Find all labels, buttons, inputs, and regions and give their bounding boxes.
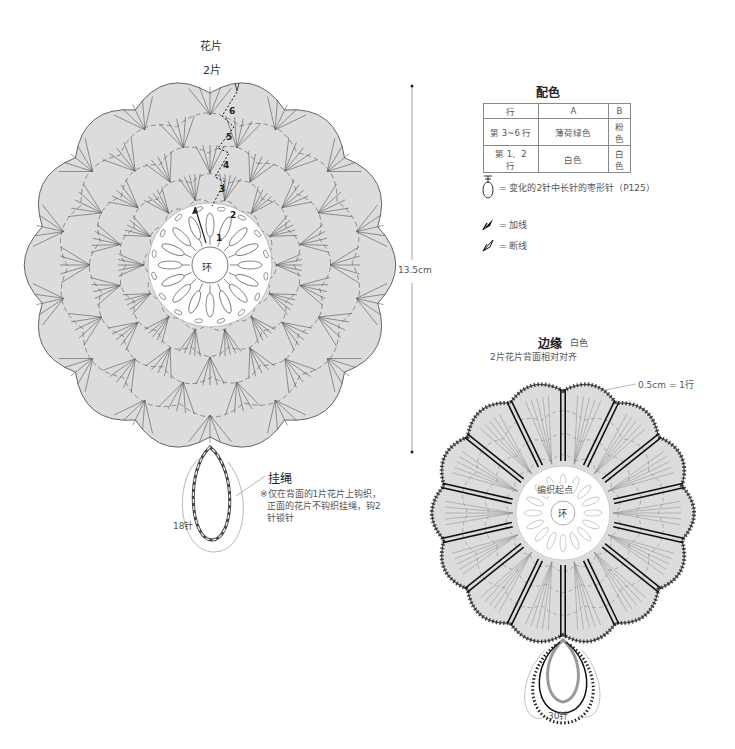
row-number-1: 1 (216, 233, 222, 243)
row-number-5: 5 (226, 132, 232, 142)
oval-stitch-icon (481, 174, 495, 200)
color-table-cell: 第 3~6 行 (484, 119, 539, 146)
join-yarn-icon (481, 217, 495, 231)
legend-item-join-yarn: = 加线 (481, 217, 527, 231)
color-table-header-row-label: 行 (484, 104, 539, 119)
color-table-header-b: B (609, 104, 631, 119)
border-loop-stitch-count: 30针 (548, 709, 568, 722)
row-number-4: 4 (223, 160, 229, 170)
color-table-row: 第 1、2 行 白色 白色 (484, 146, 631, 173)
hanging-loop-note-3: 针锁针 (267, 511, 294, 524)
border-start-label: 编织起点 (537, 483, 573, 496)
color-table-header-row: 行 A B (484, 104, 631, 119)
border-title: 边缘 (538, 334, 562, 351)
flower-count: 2片 (203, 61, 221, 77)
hanging-loop-stitch-count: 18针 (173, 519, 193, 532)
color-table-cell: 白色 (538, 146, 608, 173)
legend-label: = 加线 (499, 218, 527, 231)
flower-center-ring-label: 环 (202, 259, 212, 274)
border-color-label: 白色 (570, 336, 588, 349)
color-table-cell: 白色 (609, 146, 631, 173)
legend-item-oval-stitch: = 变化的2针中长针的枣形针（P125） (481, 174, 655, 200)
hanging-loop-title: 挂绳 (268, 469, 292, 486)
legend-label: = 变化的2针中长针的枣形针（P125） (499, 181, 655, 194)
cut-yarn-icon (481, 238, 495, 252)
row-number-2: 2 (230, 210, 236, 220)
color-table: 行 A B 第 3~6 行 薄荷绿色 粉色 第 1、2 行 白色 白色 (483, 103, 631, 173)
color-table-cell: 粉色 (609, 119, 631, 146)
color-table-row: 第 3~6 行 薄荷绿色 粉色 (484, 119, 631, 146)
legend-item-cut-yarn: = 断线 (481, 238, 527, 252)
border-row-note: 0.5cm = 1行 (638, 378, 694, 391)
height-dimension-label: 13.5cm (398, 263, 432, 277)
legend-label: = 断线 (499, 239, 527, 252)
row-number-6: 6 (229, 106, 235, 116)
color-table-cell: 薄荷绿色 (538, 119, 608, 146)
hanging-loop-chart (182, 447, 265, 552)
color-table-cell: 第 1、2 行 (484, 146, 539, 173)
border-center-ring-label: 环 (558, 507, 567, 520)
flower-title: 花片 (200, 37, 222, 53)
color-table-title: 配色 (536, 83, 560, 100)
color-table-header-a: A (538, 104, 608, 119)
row-number-3: 3 (219, 184, 225, 194)
border-subtitle: 2片花片背面相对对齐 (490, 350, 577, 363)
